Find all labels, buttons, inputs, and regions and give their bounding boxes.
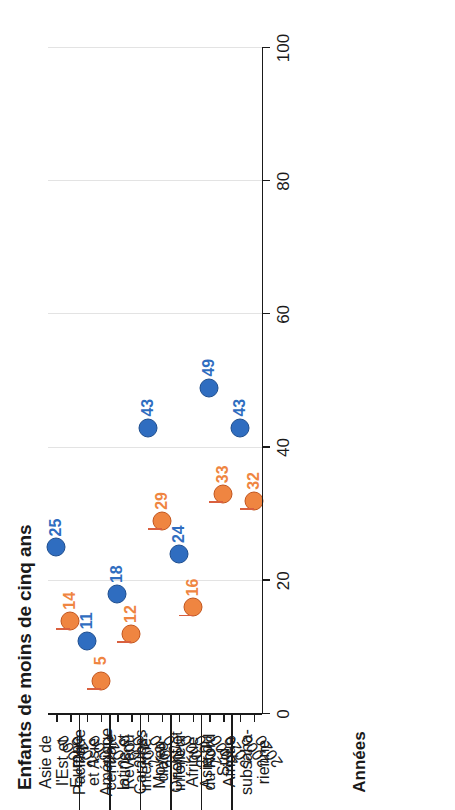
value-axis-label: 80 <box>274 172 294 191</box>
category-axis-band: 20002020Asie del'Est etPacifique20002020… <box>48 714 262 810</box>
data-point-label-2020: 33 <box>214 465 232 483</box>
value-axis-label: 20 <box>274 571 294 590</box>
gridline <box>48 180 262 181</box>
data-point-label-2020: 12 <box>122 605 140 623</box>
plot-area: 251411518124329241649334332 <box>48 48 262 714</box>
data-point-label-2000: 25 <box>47 519 65 537</box>
gridline <box>48 47 262 48</box>
value-axis-label: 0 <box>274 709 294 718</box>
value-axis-tick <box>262 47 270 48</box>
connector-line <box>117 641 131 643</box>
data-point-2000[interactable] <box>138 418 157 437</box>
connector-line <box>87 688 101 690</box>
data-point-label-2000: 24 <box>170 525 188 543</box>
data-point-label-2000: 11 <box>78 612 96 629</box>
data-point-label-2020: 32 <box>245 472 263 490</box>
connector-line <box>148 528 162 530</box>
value-axis-title: Enfants de moins de cinq ans <box>14 525 36 790</box>
data-point-label-2020: 5 <box>92 656 110 665</box>
connector-line <box>209 501 223 503</box>
value-axis-tick <box>262 713 270 714</box>
value-axis-tick <box>262 313 270 314</box>
rotated-chart-stage: Enfants de moins de cinq ans 25141151812… <box>0 0 455 810</box>
value-axis-label: 40 <box>274 438 294 457</box>
connector-line <box>56 628 70 630</box>
gridline <box>48 580 262 581</box>
data-point-label-2000: 43 <box>231 399 249 417</box>
gridline <box>48 447 262 448</box>
data-point-label-2000: 49 <box>200 359 218 377</box>
data-point-2000[interactable] <box>108 585 127 604</box>
data-point-label-2000: 18 <box>108 565 126 583</box>
category-label: Afriquesubsaha-rienne <box>221 716 272 808</box>
value-axis-label: 100 <box>274 34 294 62</box>
value-axis-label: 60 <box>274 305 294 324</box>
value-axis-tick <box>262 446 270 447</box>
chart-figure: Enfants de moins de cinq ans 25141151812… <box>0 0 455 810</box>
data-point-label-2000: 43 <box>139 399 157 417</box>
data-point-label-2020: 16 <box>184 579 202 597</box>
value-axis-tick <box>262 180 270 181</box>
data-point-label-2020: 14 <box>61 592 79 610</box>
data-point-2000[interactable] <box>77 631 96 650</box>
value-axis-tick <box>262 579 270 580</box>
gridline <box>48 313 262 314</box>
connector-line <box>179 615 193 617</box>
connector-line <box>240 508 254 510</box>
category-axis-title: Années <box>350 714 370 810</box>
data-point-2000[interactable] <box>230 418 249 437</box>
data-point-2000[interactable] <box>169 545 188 564</box>
data-point-2000[interactable] <box>200 378 219 397</box>
data-point-label-2020: 29 <box>153 492 171 510</box>
data-point-2000[interactable] <box>47 538 66 557</box>
value-axis: 020406080100 <box>262 48 263 714</box>
